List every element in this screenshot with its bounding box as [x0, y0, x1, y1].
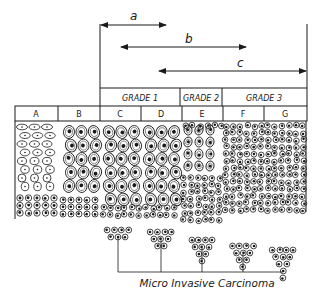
- cell-nucleus: [94, 206, 97, 209]
- cell-nucleus: [46, 143, 48, 145]
- cell-nucleus: [273, 146, 276, 149]
- cell-nucleus: [131, 206, 134, 209]
- cell-nucleus: [296, 181, 299, 184]
- cell-nucleus: [173, 157, 177, 161]
- grade-1-label: GRADE 1: [122, 94, 158, 103]
- cell-nucleus: [197, 239, 200, 242]
- cell-nucleus: [36, 204, 39, 207]
- cell-nucleus: [245, 258, 248, 261]
- cell-nucleus: [36, 197, 39, 200]
- cell-nucleus: [62, 213, 65, 216]
- cell-nucleus: [295, 154, 298, 157]
- cell-nucleus: [245, 244, 248, 247]
- cell-nucleus: [253, 180, 256, 183]
- cell-nucleus: [295, 124, 298, 127]
- cell-nucleus: [274, 173, 277, 176]
- cell-nucleus: [280, 208, 283, 211]
- cell-nucleus: [218, 198, 221, 201]
- cell-nucleus: [292, 249, 295, 252]
- cell-nucleus: [204, 218, 207, 221]
- cell-nucleus: [189, 205, 192, 208]
- cell-nucleus: [132, 156, 136, 161]
- cell-nucleus: [260, 138, 263, 141]
- cell-nucleus: [197, 220, 200, 223]
- cell-nucleus: [232, 139, 235, 142]
- cell-nucleus: [295, 146, 298, 149]
- cell-nucleus: [277, 263, 280, 266]
- cell-nucleus: [123, 206, 126, 209]
- cell-nucleus: [189, 198, 192, 201]
- cell-nucleus: [258, 180, 261, 183]
- cell-nucleus: [133, 170, 138, 175]
- cell-nucleus: [252, 167, 255, 170]
- cell-nucleus: [253, 188, 256, 191]
- cell-nucleus: [224, 153, 227, 156]
- cell-nucleus: [107, 184, 112, 189]
- cell-nucleus: [120, 229, 123, 232]
- column-g-label: G: [282, 110, 288, 119]
- cell-nucleus: [208, 140, 212, 144]
- cell-nucleus: [232, 188, 235, 191]
- cell-nucleus: [252, 194, 255, 197]
- cell-nucleus: [197, 204, 200, 207]
- cell-nucleus: [275, 138, 278, 141]
- cell-nucleus: [181, 218, 184, 221]
- cell-nucleus: [260, 154, 263, 157]
- cell-nucleus: [171, 184, 176, 189]
- cell-nucleus: [24, 186, 26, 188]
- cell-nucleus: [66, 155, 71, 160]
- cell-nucleus: [288, 124, 291, 127]
- cell-nucleus: [69, 170, 74, 175]
- cell-nucleus: [239, 131, 242, 134]
- cell-nucleus: [235, 252, 238, 255]
- cell-nucleus: [261, 130, 264, 133]
- cell-nucleus: [79, 130, 84, 135]
- column-row: A B C D E F G: [15, 106, 307, 121]
- range-b: b: [121, 32, 246, 47]
- cell-nucleus: [70, 198, 73, 201]
- cell-nucleus: [94, 198, 97, 201]
- cell-nucleus: [159, 130, 164, 135]
- cell-nucleus: [260, 167, 263, 170]
- cell-nucleus: [160, 156, 165, 161]
- cell-nucleus: [261, 195, 264, 198]
- cell-nucleus: [210, 211, 213, 214]
- cell-nucleus: [288, 256, 291, 259]
- cell-nucleus: [91, 156, 96, 161]
- cell-nucleus: [118, 156, 123, 161]
- cell-nucleus: [267, 145, 270, 148]
- cell-nucleus: [198, 253, 201, 256]
- cell-nucleus: [105, 156, 110, 161]
- cell-nucleus: [162, 143, 167, 148]
- cell-nucleus: [231, 209, 234, 212]
- cell-nucleus: [220, 125, 223, 128]
- cell-nucleus: [266, 210, 269, 213]
- cell-nucleus: [199, 125, 202, 128]
- cell-nucleus: [231, 159, 234, 162]
- cell-nucleus: [49, 135, 51, 137]
- cell-nucleus: [183, 204, 186, 207]
- cell-nucleus: [273, 132, 276, 135]
- cell-nucleus: [123, 213, 126, 216]
- cell-nucleus: [183, 184, 186, 187]
- cell-nucleus: [267, 153, 270, 156]
- cell-nucleus: [37, 135, 39, 137]
- cell-nucleus: [260, 125, 263, 128]
- cell-nucleus: [171, 129, 176, 134]
- cell-nucleus: [253, 153, 256, 156]
- cell-nucleus: [295, 140, 298, 143]
- cell-nucleus: [210, 205, 213, 208]
- epithelial-cells: [17, 122, 307, 281]
- cell-nucleus: [294, 173, 297, 176]
- cell-nucleus: [285, 249, 288, 252]
- cell-nucleus: [281, 173, 284, 176]
- cell-nucleus: [107, 130, 111, 134]
- cell-nucleus: [267, 139, 270, 142]
- cell-nucleus: [148, 169, 153, 174]
- cell-nucleus: [231, 245, 234, 248]
- cell-nucleus: [252, 146, 255, 149]
- cell-nucleus: [281, 138, 284, 141]
- cell-nucleus: [45, 211, 48, 214]
- cell-nucleus: [282, 201, 285, 204]
- column-b-label: B: [76, 110, 82, 119]
